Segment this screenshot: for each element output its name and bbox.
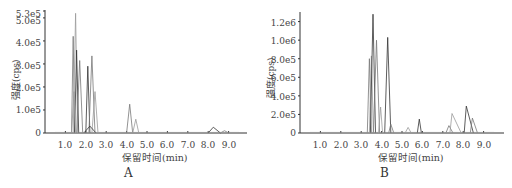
chromatogram-peak [385, 37, 391, 133]
y-tick-label: 1.2e6 [256, 19, 296, 28]
y-tick-label: 4.0e5 [1, 39, 41, 48]
x-tick-label: 9.0 [472, 141, 496, 150]
y-axis-label: 强度(cps) [9, 60, 22, 100]
y-tick-label: 2.0e5 [256, 111, 296, 120]
x-axis-label: 保留时间(min) [122, 150, 188, 164]
chromatogram-peak [127, 104, 133, 133]
y-tick-label: 1.0e6 [256, 37, 296, 46]
panel-label-a: A [124, 166, 133, 180]
chromatogram-peak [446, 126, 453, 133]
x-axis-label: 保留时间(min) [378, 150, 444, 164]
panel-label-b: B [380, 166, 389, 180]
chromatogram-panel-b: 1.2e6 1.0e6 8.0e5 6.0e5 4.0e5 2.0e5 0 强度… [256, 0, 512, 188]
y-tick-label: 0 [256, 129, 296, 138]
y-tick-label: 1.0e5 [1, 106, 41, 115]
y-tick-label: 5.0e5 [1, 17, 41, 26]
chromatogram-peak [470, 118, 477, 133]
chromatogram-peak [133, 119, 139, 133]
x-tick-label: 9.0 [217, 141, 241, 150]
chromatogram-peak [389, 124, 394, 133]
y-tick-label: 0 [1, 129, 41, 138]
chromatogram-panel-a: 5.3e5 5.0e5 4.0e5 3.0e5 2.0e5 1.0e5 0 强度… [0, 0, 256, 188]
chromatogram-peak [417, 119, 421, 133]
y-axis-label: 强度(cps) [264, 58, 277, 98]
